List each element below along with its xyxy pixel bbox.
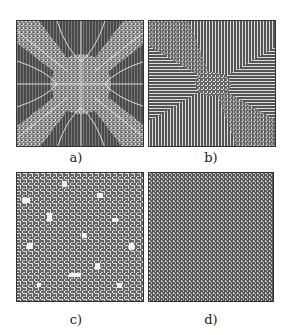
- panel-d-caption: d): [191, 312, 231, 327]
- panel-a-pattern: [17, 21, 144, 147]
- panel-a-image: [16, 20, 144, 147]
- panel-b-caption: b): [191, 150, 231, 165]
- panel-c-caption: c): [56, 312, 96, 327]
- panel-c-image: [16, 172, 144, 302]
- panel-d-pattern: [149, 173, 274, 302]
- panel-c-pattern: [17, 173, 144, 302]
- panel-b-image: [148, 20, 276, 147]
- panel-a-caption: a): [56, 150, 96, 165]
- panel-b-pattern: [149, 21, 276, 147]
- panel-d-image: [148, 172, 274, 302]
